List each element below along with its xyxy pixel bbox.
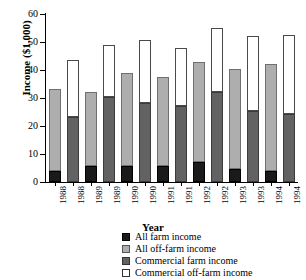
x-tick-label: 1989 [113,186,122,220]
bar-segment [283,114,295,182]
x-tick-mark [289,182,290,186]
legend-swatch [122,233,130,241]
bar [85,92,97,182]
y-tick-label: 40 [14,65,38,75]
legend-swatch [122,245,130,253]
y-tick-label: 0 [14,177,38,187]
x-tick-mark [163,182,164,186]
bar [283,35,295,182]
bar [211,28,223,182]
x-tick-label: 1990 [131,186,140,220]
bar [157,77,169,182]
x-tick-mark [55,182,56,186]
bar [121,73,133,182]
bar-segment [103,45,115,97]
y-tick-label: 20 [14,121,38,131]
bar [265,64,277,182]
bar-segment [247,111,259,182]
y-tick-mark [40,182,46,183]
bar-segment [175,48,187,106]
bar-segment [265,64,277,170]
legend-swatch [122,269,130,277]
bar-segment [283,35,295,114]
x-tick-label: 1989 [95,186,104,220]
bar-segment [49,89,61,172]
bar-segment [67,60,79,118]
x-tick-mark [127,182,128,186]
x-tick-label: 1991 [167,186,176,220]
bar-segment [49,171,61,182]
x-tick-label: 1994 [293,186,302,220]
bar-segment [157,166,169,182]
x-tick-label: 1993 [239,186,248,220]
bar-segment [265,171,277,182]
bar-segment [229,69,241,168]
legend-item: All farm income [122,231,306,243]
x-tick-mark [73,182,74,186]
plot-area [46,14,298,182]
bar-segment [193,162,205,182]
bar-segment [139,40,151,104]
x-tick-mark [271,182,272,186]
x-tick-mark [109,182,110,186]
bar-segment [175,106,187,182]
x-tick-mark [181,182,182,186]
bar [247,36,259,182]
y-tick-label: 60 [14,9,38,19]
chart-legend: All farm incomeAll off-farm incomeCommer… [122,231,306,279]
x-tick-label: 1993 [257,186,266,220]
bar-segment [193,62,205,162]
bar-segment [121,73,133,166]
bar-segment [67,117,79,182]
x-tick-mark [145,182,146,186]
bar-segment [247,36,259,111]
bar-segment [121,166,133,182]
bar [229,69,241,182]
x-tick-label: 1991 [185,186,194,220]
bar [49,89,61,182]
x-tick-mark [199,182,200,186]
bar [175,48,187,182]
legend-label: All off-farm income [135,244,216,254]
bar-segment [103,97,115,182]
x-tick-label: 1988 [59,186,68,220]
legend-item: All off-farm income [122,243,306,255]
bar-segment [229,169,241,182]
x-tick-mark [91,182,92,186]
legend-label: Commercial off-farm income [135,268,253,278]
bar-segment [211,28,223,93]
x-tick-mark [253,182,254,186]
bar-segment [211,92,223,182]
legend-label: Commercial farm income [135,256,238,266]
x-tick-label: 1990 [149,186,158,220]
bar [67,60,79,182]
x-tick-mark [235,182,236,186]
x-tick-mark [217,182,218,186]
chart-figure: Income ($1,000) 0102030405060 1988198819… [0,0,306,280]
legend-swatch [122,257,130,265]
bar-segment [85,92,97,166]
bar [103,45,115,182]
legend-item: Commercial farm income [122,255,306,267]
bar-segment [85,166,97,182]
bar-segment [157,77,169,166]
bar [139,39,151,182]
y-tick-label: 50 [14,37,38,47]
x-tick-label: 1992 [221,186,230,220]
bar [193,62,205,182]
y-tick-label: 30 [14,93,38,103]
x-tick-label: 1988 [77,186,86,220]
x-tick-label: 1992 [203,186,212,220]
y-tick-label: 10 [14,149,38,159]
legend-item: Commercial off-farm income [122,267,306,279]
bar-segment [139,103,151,182]
legend-label: All farm income [135,232,201,242]
x-axis-line [45,182,298,183]
x-tick-label: 1994 [275,186,284,220]
